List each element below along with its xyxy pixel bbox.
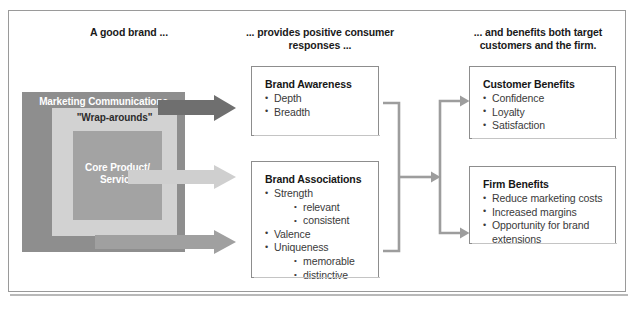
arrow-head xyxy=(214,95,236,121)
bullet-text: Valence xyxy=(274,228,372,242)
arrow-shaft xyxy=(95,235,216,249)
bullet-text: Satisfaction xyxy=(492,119,609,133)
bullet-item: Reduce marketing costs xyxy=(483,192,609,206)
bullet-text: Opportunity for brand extensions xyxy=(492,219,609,246)
bullet-item: Strengthrelevantconsistent xyxy=(265,187,372,228)
arrow-head xyxy=(214,165,236,189)
bullet-list: StrengthrelevantconsistentValenceUniquen… xyxy=(265,187,372,282)
card-title: Firm Benefits xyxy=(483,178,609,191)
bullet-item: Depth xyxy=(265,92,372,106)
card-content: Brand Awareness DepthBreadth xyxy=(265,78,372,119)
arrow-shaft xyxy=(158,100,216,115)
bullet-item: Satisfaction xyxy=(483,119,609,133)
bullet-item: Loyalty xyxy=(483,106,609,120)
bullet-item: Breadth xyxy=(265,106,372,120)
card-title: Brand Awareness xyxy=(265,78,372,91)
sub-bullet-item: consistent xyxy=(294,214,372,228)
bullet-text: Increased margins xyxy=(492,206,609,220)
card-firm-benefits: Firm Benefits Reduce marketing costsIncr… xyxy=(469,166,616,244)
card-brand-associations: Brand Associations Strengthrelevantconsi… xyxy=(251,161,379,278)
arrow-wraparounds-to-brand-associations xyxy=(95,235,236,249)
bullet-item: Increased margins xyxy=(483,206,609,220)
card-content: Customer Benefits ConfidenceLoyaltySatis… xyxy=(483,78,609,133)
bullet-text: Depth xyxy=(274,92,372,106)
bullet-text: Breadth xyxy=(274,106,372,120)
card-content: Brand Associations Strengthrelevantconsi… xyxy=(265,173,372,282)
sub-bullet-list: relevantconsistent xyxy=(274,201,372,228)
bullet-text: Reduce marketing costs xyxy=(492,192,609,206)
bullet-item: Uniquenessmemorabledistinctive xyxy=(265,241,372,282)
sub-bullet-item: distinctive xyxy=(294,269,372,283)
sub-bullet-list: memorabledistinctive xyxy=(274,255,372,282)
sub-bullet-item: relevant xyxy=(294,201,372,215)
column-heading-middle: ... provides positive consumer responses… xyxy=(244,26,396,52)
arrow-head xyxy=(214,230,236,254)
bullet-text: Confidence xyxy=(492,92,609,106)
bullet-item: Opportunity for brand extensions xyxy=(483,219,609,246)
column-heading-left: A good brand ... xyxy=(24,26,234,39)
bullet-text: Loyalty xyxy=(492,106,609,120)
card-title: Brand Associations xyxy=(265,173,372,186)
bullet-text: Uniqueness xyxy=(274,241,372,255)
bullet-item: Confidence xyxy=(483,92,609,106)
arrow-core-product-to-brand-associations xyxy=(128,170,236,184)
bullet-list: DepthBreadth xyxy=(265,92,372,119)
card-content: Firm Benefits Reduce marketing costsIncr… xyxy=(483,178,609,246)
bullet-item: Valence xyxy=(265,228,372,242)
brand-value-diagram: A good brand ... ... provides positive c… xyxy=(0,0,636,318)
sub-bullet-item: memorable xyxy=(294,255,372,269)
card-title: Customer Benefits xyxy=(483,78,609,91)
card-brand-awareness: Brand Awareness DepthBreadth xyxy=(251,66,379,136)
bullet-list: Reduce marketing costsIncreased marginsO… xyxy=(483,192,609,246)
card-customer-benefits: Customer Benefits ConfidenceLoyaltySatis… xyxy=(469,66,616,139)
bullet-text: Strength xyxy=(274,187,372,201)
column-heading-right: ... and benefits both target customers a… xyxy=(452,26,624,52)
figure-frame-shadow xyxy=(10,294,628,296)
arrow-shaft xyxy=(128,170,216,184)
arrow-marketing-communications-to-brand-awareness xyxy=(158,100,236,115)
bullet-list: ConfidenceLoyaltySatisfaction xyxy=(483,92,609,133)
